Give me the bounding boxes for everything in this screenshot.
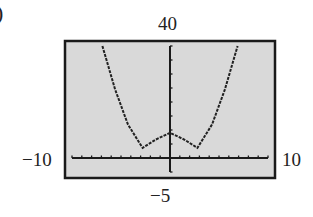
- calculator-screen: [0, 0, 313, 217]
